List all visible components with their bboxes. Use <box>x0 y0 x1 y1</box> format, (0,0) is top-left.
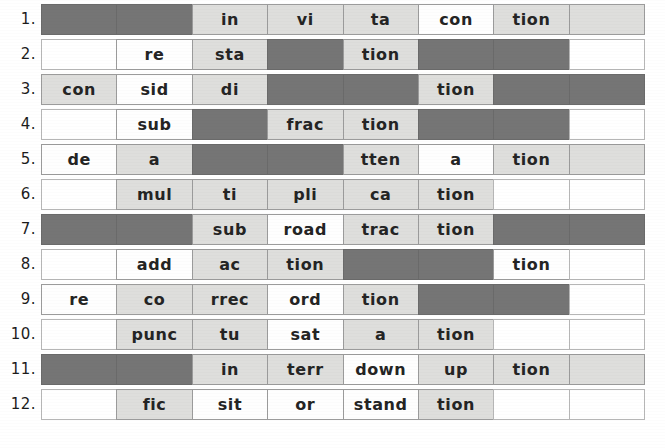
empty-cell[interactable] <box>569 179 645 210</box>
syllable-cell[interactable]: add <box>116 249 192 280</box>
shaded-blank-cell <box>569 74 645 105</box>
row-cells: punctusatation <box>41 317 645 352</box>
empty-cell <box>569 354 645 385</box>
syllable-cell: tion <box>493 4 569 35</box>
row-number-label: 7. <box>0 212 36 247</box>
syllable-cell[interactable]: tion <box>493 249 569 280</box>
syllable-cell[interactable]: ord <box>267 284 343 315</box>
worksheet-row: 11.interrdownuption <box>0 352 665 387</box>
shaded-blank-cell <box>418 249 494 280</box>
worksheet-row: 12.ficsitorstandtion <box>0 387 665 422</box>
syllable-cell: co <box>116 284 192 315</box>
syllable-cell[interactable]: sat <box>267 319 343 350</box>
syllable-cell: in <box>192 354 268 385</box>
empty-cell <box>569 144 645 175</box>
shaded-blank-cell <box>116 354 192 385</box>
empty-cell[interactable] <box>41 39 117 70</box>
row-cells: subfraction <box>41 107 645 142</box>
shaded-blank-cell <box>267 39 343 70</box>
syllable-cell: trac <box>343 214 419 245</box>
empty-cell[interactable] <box>569 109 645 140</box>
syllable-cell: fic <box>116 389 192 420</box>
shaded-blank-cell <box>493 74 569 105</box>
syllable-cell[interactable]: sid <box>116 74 192 105</box>
syllable-cell: sta <box>192 39 268 70</box>
row-number-label: 2. <box>0 37 36 72</box>
row-number-label: 10. <box>0 317 36 352</box>
row-cells: considdition <box>41 72 645 107</box>
syllable-cell[interactable]: sit <box>192 389 268 420</box>
row-cells: recorrecordtion <box>41 282 645 317</box>
syllable-cell: up <box>418 354 494 385</box>
syllable-cell: tion <box>418 179 494 210</box>
row-number-label: 6. <box>0 177 36 212</box>
shaded-blank-cell <box>493 109 569 140</box>
row-cells: invitacontion <box>41 2 645 37</box>
syllable-cell[interactable]: down <box>343 354 419 385</box>
empty-cell <box>569 4 645 35</box>
row-number-label: 1. <box>0 2 36 37</box>
worksheet-row: 8.addactiontion <box>0 247 665 282</box>
syllable-cell: mul <box>116 179 192 210</box>
syllable-cell: tion <box>418 319 494 350</box>
row-number-label: 3. <box>0 72 36 107</box>
empty-cell[interactable] <box>41 109 117 140</box>
empty-cell[interactable] <box>493 319 569 350</box>
syllable-cell: tion <box>267 249 343 280</box>
syllable-cell: tten <box>343 144 419 175</box>
shaded-blank-cell <box>116 214 192 245</box>
row-cells: subroadtraction <box>41 212 645 247</box>
syllable-cell: tion <box>418 389 494 420</box>
worksheet-row: 6.multiplication <box>0 177 665 212</box>
empty-cell[interactable] <box>493 389 569 420</box>
shaded-blank-cell <box>343 249 419 280</box>
syllable-cell: tion <box>493 354 569 385</box>
row-cells: deattenation <box>41 142 645 177</box>
syllable-cell[interactable]: de <box>41 144 117 175</box>
syllable-cell: con <box>41 74 117 105</box>
empty-cell[interactable] <box>569 284 645 315</box>
empty-cell[interactable] <box>41 319 117 350</box>
shaded-blank-cell <box>267 144 343 175</box>
syllable-cell: tion <box>343 284 419 315</box>
syllable-cell: tion <box>418 214 494 245</box>
syllable-cell: tion <box>343 109 419 140</box>
syllable-cell: pli <box>267 179 343 210</box>
empty-cell[interactable] <box>41 389 117 420</box>
worksheet-row: 4.subfraction <box>0 107 665 142</box>
syllable-cell[interactable]: con <box>418 4 494 35</box>
empty-cell[interactable] <box>569 249 645 280</box>
empty-cell[interactable] <box>569 319 645 350</box>
syllable-cell: tu <box>192 319 268 350</box>
empty-cell[interactable] <box>569 389 645 420</box>
syllable-cell: di <box>192 74 268 105</box>
shaded-blank-cell <box>343 74 419 105</box>
row-number-label: 8. <box>0 247 36 282</box>
empty-cell[interactable] <box>41 249 117 280</box>
syllable-cell: vi <box>267 4 343 35</box>
syllable-cell: terr <box>267 354 343 385</box>
empty-cell[interactable] <box>493 179 569 210</box>
worksheet-row: 7.subroadtraction <box>0 212 665 247</box>
syllable-cell[interactable]: road <box>267 214 343 245</box>
syllable-cell: tion <box>343 39 419 70</box>
shaded-blank-cell <box>418 109 494 140</box>
shaded-blank-cell <box>192 144 268 175</box>
syllable-cell[interactable]: or <box>267 389 343 420</box>
syllable-cell: ti <box>192 179 268 210</box>
worksheet-row: 10.punctusatation <box>0 317 665 352</box>
empty-cell[interactable] <box>569 39 645 70</box>
syllable-cell[interactable]: re <box>41 284 117 315</box>
syllable-cell[interactable]: a <box>418 144 494 175</box>
syllable-cell[interactable]: re <box>116 39 192 70</box>
syllable-cell: a <box>116 144 192 175</box>
syllable-worksheet: 1.invitacontion2.restation3.considdition… <box>0 0 665 448</box>
shaded-blank-cell <box>493 214 569 245</box>
worksheet-row: 2.restation <box>0 37 665 72</box>
empty-cell[interactable] <box>41 179 117 210</box>
syllable-cell[interactable]: stand <box>343 389 419 420</box>
syllable-cell: ta <box>343 4 419 35</box>
syllable-cell: in <box>192 4 268 35</box>
syllable-cell[interactable]: sub <box>116 109 192 140</box>
shaded-blank-cell <box>192 109 268 140</box>
